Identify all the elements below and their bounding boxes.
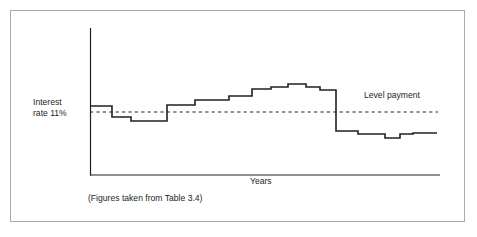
y-axis-label-line1: Interest [33, 97, 67, 108]
y-axis-label: Interest rate 11% [33, 97, 67, 118]
x-axis-label: Years [250, 176, 272, 187]
chart-canvas [0, 0, 477, 237]
level-payment-label: Level payment [364, 90, 420, 101]
figure-root: Interest rate 11% Level payment Years (F… [0, 0, 477, 237]
axes [90, 28, 440, 176]
y-axis-label-line2: rate 11% [33, 108, 67, 119]
source-note: (Figures taken from Table 3.4) [88, 193, 202, 204]
